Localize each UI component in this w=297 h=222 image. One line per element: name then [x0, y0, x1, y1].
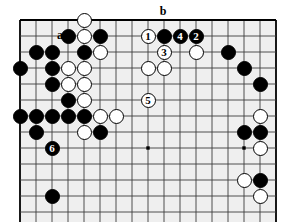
stone-white[interactable] — [253, 141, 268, 156]
stone-black[interactable] — [29, 45, 44, 60]
stone-white[interactable] — [77, 61, 92, 76]
stone-black[interactable] — [253, 173, 268, 188]
star-point — [242, 146, 245, 149]
stone-white[interactable] — [189, 45, 204, 60]
stone-white-move-3[interactable] — [157, 45, 172, 60]
stone-black[interactable] — [45, 45, 60, 60]
stone-black[interactable] — [61, 93, 76, 108]
stone-black[interactable] — [45, 61, 60, 76]
stone-black[interactable] — [237, 125, 252, 140]
stone-black[interactable] — [157, 29, 172, 44]
stone-black[interactable] — [221, 45, 236, 60]
stone-white[interactable] — [253, 189, 268, 204]
stone-black-move-6[interactable] — [45, 141, 60, 156]
stone-black[interactable] — [45, 109, 60, 124]
stone-white[interactable] — [77, 13, 92, 28]
stone-white-move-5[interactable] — [141, 93, 156, 108]
board-label-a: a — [53, 28, 67, 42]
stone-black[interactable] — [61, 109, 76, 124]
stone-black-move-2[interactable] — [189, 29, 204, 44]
go-diagram: 651342 ab — [0, 0, 297, 222]
stone-black[interactable] — [77, 109, 92, 124]
stone-black[interactable] — [45, 189, 60, 204]
stone-white[interactable] — [253, 109, 268, 124]
stone-black[interactable] — [93, 29, 108, 44]
stone-white-move-1[interactable] — [141, 29, 156, 44]
stone-black[interactable] — [13, 109, 28, 124]
stone-white[interactable] — [77, 29, 92, 44]
stone-black[interactable] — [29, 125, 44, 140]
stone-white[interactable] — [93, 45, 108, 60]
stone-black[interactable] — [13, 61, 28, 76]
stone-black[interactable] — [253, 77, 268, 92]
stone-black-move-4[interactable] — [173, 29, 188, 44]
stone-black[interactable] — [237, 61, 252, 76]
stone-black[interactable] — [93, 125, 108, 140]
stone-white[interactable] — [77, 77, 92, 92]
stone-black[interactable] — [253, 125, 268, 140]
stone-black[interactable] — [77, 45, 92, 60]
stone-white[interactable] — [77, 93, 92, 108]
stone-white[interactable] — [93, 109, 108, 124]
stone-white[interactable] — [157, 61, 172, 76]
stone-white[interactable] — [77, 125, 92, 140]
stone-white[interactable] — [141, 61, 156, 76]
stone-white[interactable] — [61, 61, 76, 76]
star-point — [146, 146, 149, 149]
stone-white[interactable] — [109, 109, 124, 124]
stone-white[interactable] — [61, 77, 76, 92]
board-label-b: b — [156, 4, 170, 18]
stone-black[interactable] — [45, 77, 60, 92]
stone-black[interactable] — [29, 109, 44, 124]
stone-white[interactable] — [237, 173, 252, 188]
